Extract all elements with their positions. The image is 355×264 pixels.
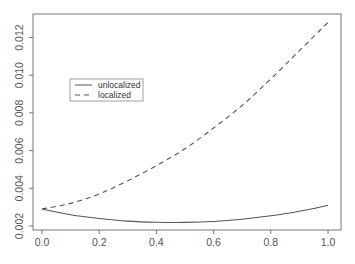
plot-frame	[33, 14, 341, 230]
y-tick-label: 0.004	[13, 175, 25, 201]
legend: unlocalized localized	[70, 79, 143, 101]
y-axis: 0.0020.0040.0060.0080.0100.012	[13, 24, 33, 239]
x-tick-label: 0.8	[263, 236, 278, 248]
y-tick-label: 0.006	[13, 137, 25, 163]
x-tick-label: 0.0	[35, 236, 50, 248]
y-tick-label: 0.010	[13, 62, 25, 88]
x-tick-label: 0.4	[149, 236, 164, 248]
line-chart: 0.00.20.40.60.81.0 0.0020.0040.0060.0080…	[0, 0, 355, 264]
y-tick-label: 0.002	[13, 213, 25, 239]
x-tick-label: 0.2	[92, 236, 107, 248]
x-axis: 0.00.20.40.60.81.0	[35, 230, 336, 248]
unlocalized-line	[42, 205, 328, 222]
x-tick-label: 1.0	[321, 236, 336, 248]
x-tick-label: 0.6	[206, 236, 221, 248]
localized-line	[42, 22, 328, 209]
legend-label-localized: localized	[98, 90, 131, 100]
y-tick-label: 0.012	[13, 24, 25, 50]
y-tick-label: 0.008	[13, 100, 25, 126]
legend-label-unlocalized: unlocalized	[98, 80, 141, 90]
